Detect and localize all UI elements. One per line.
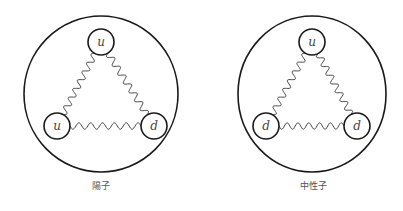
quark-label-left: u — [53, 119, 61, 133]
neutron-caption: 中性子 — [283, 179, 343, 192]
gluon-top-left — [272, 53, 306, 114]
gluon-top-right — [106, 53, 148, 115]
quark-label-left: d — [262, 119, 270, 133]
gluon-top-left — [63, 53, 95, 114]
quark-label-right: d — [150, 119, 158, 133]
neutron-diagram: u d d — [238, 16, 386, 172]
gluon-bottom — [70, 123, 141, 129]
quark-label-right: d — [353, 119, 361, 133]
proton-diagram: u u d — [24, 16, 178, 172]
gluon-bottom — [279, 123, 344, 129]
quark-label-top: u — [308, 35, 316, 49]
proton-caption: 陽子 — [71, 179, 131, 192]
quark-label-top: u — [97, 35, 105, 49]
gluon-top-right — [316, 53, 352, 114]
